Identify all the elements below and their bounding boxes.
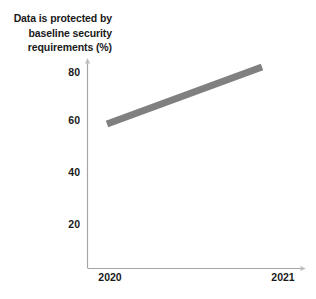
plot-area: 80 60 40 20 2020 2021 [0,0,316,299]
y-tick-label-80: 80 [46,66,80,78]
chart-container: Data is protected by baseline security r… [0,0,316,299]
y-tick-label-40: 40 [46,166,80,178]
series-line-baseline-security [107,67,262,124]
y-tick-label-60: 60 [46,114,80,126]
y-axis-arrowhead [85,58,90,64]
y-tick-label-20: 20 [46,218,80,230]
x-tick-label-2021: 2021 [253,271,313,283]
x-tick-label-2020: 2020 [80,271,140,283]
chart-svg-canvas [0,0,316,299]
